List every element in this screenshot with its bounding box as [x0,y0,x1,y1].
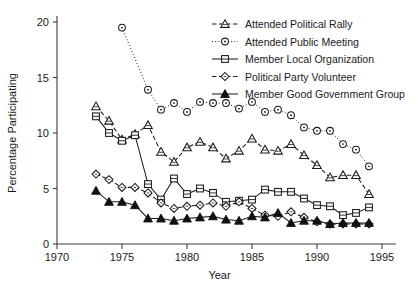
data-point-1-11-dot [277,109,279,111]
data-point-1-13-dot [303,127,305,129]
legend-entry-4[interactable]: Member Good Government Group [212,88,405,100]
legend-label-3: Political Party Volunteer [245,71,356,83]
data-point-1-9-dot [251,101,253,103]
legend-label-4: Member Good Government Group [245,88,405,100]
data-point-1-12-dot [290,114,292,116]
x-tick-label-1970: 1970 [45,251,69,263]
data-point-0-15 [287,140,296,148]
data-point-0-14 [274,146,283,154]
data-point-1-7-dot [225,102,227,104]
data-point-0-20 [352,171,361,179]
data-point-4-12 [248,212,257,220]
legend-entry-0[interactable]: Attended Political Rally [212,18,353,30]
data-point-0-7 [183,143,192,151]
x-tick-label-1995: 1995 [370,251,394,263]
data-point-0-8 [196,138,205,146]
y-tick-label-10: 10 [37,127,49,139]
data-point-4-0 [92,186,101,194]
data-point-4-14 [274,209,283,217]
y-tick-label-5: 5 [43,183,49,195]
data-point-0-21 [365,190,374,198]
data-point-1-6-dot [212,102,214,104]
data-point-0-5 [157,148,166,156]
data-point-0-0 [92,102,101,110]
y-tick-label-20: 20 [37,16,49,28]
data-point-1-14-dot [316,130,318,132]
data-point-0-13 [261,145,270,153]
line-chart-plot: 05101520197019751980198519901995Percenta… [0,0,418,290]
data-point-1-2-dot [160,109,162,111]
data-point-0-12 [248,134,257,142]
legend-layer: Attended Political RallyAttended Public … [212,18,405,100]
data-point-0-4 [144,121,153,129]
data-point-0-11 [235,146,244,154]
y-tick-label-15: 15 [37,72,49,84]
legend-label-0: Attended Political Rally [245,18,353,30]
data-point-1-15-dot [329,130,331,132]
data-point-1-1-dot [147,89,149,91]
data-point-1-0-dot [121,27,123,29]
data-point-1-18-dot [368,165,370,167]
legend-entry-2[interactable]: Member Local Organization [212,53,374,65]
x-tick-label-1990: 1990 [305,251,329,263]
legend-entry-3[interactable]: Political Party Volunteer [212,71,356,83]
y-axis-title: Percentage Participating [6,73,18,193]
series-0 [92,102,374,197]
data-point-1-4-dot [186,111,188,113]
x-axis-title: Year [208,269,231,281]
data-point-0-17 [313,161,322,169]
data-point-1-10-dot [264,111,266,113]
data-point-1-5-dot [199,101,201,103]
x-tick-label-1975: 1975 [110,251,134,263]
y-tick-label-0: 0 [43,238,49,250]
data-point-1-8-dot [238,108,240,110]
data-point-1-3-dot [173,102,175,104]
x-tick-label-1985: 1985 [240,251,264,263]
data-point-1-17-dot [355,149,357,151]
data-point-0-19 [339,171,348,179]
legend-label-1: Attended Public Meeting [245,36,359,48]
chart-container: 05101520197019751980198519901995Percenta… [0,0,418,290]
data-point-4-9 [209,212,218,220]
x-tick-label-1980: 1980 [175,251,199,263]
legend-label-2: Member Local Organization [245,53,374,65]
series-line-3 [96,174,369,224]
legend-entry-1[interactable]: Attended Public Meeting [212,36,359,48]
data-point-0-9 [209,143,218,151]
legend-marker-1-dot [224,41,226,43]
data-point-1-16-dot [342,143,344,145]
